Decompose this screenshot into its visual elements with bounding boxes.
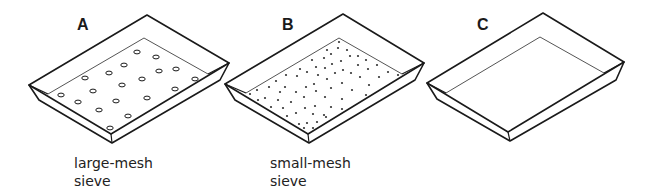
small-hole <box>324 96 326 98</box>
large-hole <box>144 96 150 100</box>
large-hole <box>139 77 145 81</box>
large-hole <box>90 89 96 93</box>
large-hole <box>192 77 198 81</box>
large-hole <box>173 67 179 71</box>
small-hole <box>324 67 326 69</box>
small-hole <box>342 69 344 71</box>
tray-a-label: A <box>77 17 89 33</box>
small-hole <box>264 97 266 99</box>
large-hole <box>113 99 119 103</box>
tray-b-caption: small-mesh sieve <box>270 154 351 190</box>
tray-rim <box>427 13 624 132</box>
small-hole <box>350 72 352 74</box>
small-hole <box>270 106 272 108</box>
small-hole <box>365 94 367 96</box>
large-hole <box>106 71 112 75</box>
small-hole <box>312 113 314 115</box>
small-hole <box>268 86 270 88</box>
small-hole <box>330 53 332 55</box>
small-hole <box>341 82 343 84</box>
small-hole <box>299 68 301 70</box>
small-hole <box>341 98 343 100</box>
small-hole <box>256 89 258 91</box>
tray-rim <box>225 14 424 134</box>
tray-b-caption-line-1: small-mesh <box>270 154 351 172</box>
small-hole <box>314 105 316 107</box>
tray-c-solid-tray <box>427 13 624 141</box>
small-hole <box>365 59 367 61</box>
small-hole <box>315 90 317 92</box>
small-hole <box>312 127 314 129</box>
small-hole <box>277 99 279 101</box>
small-hole <box>303 127 305 129</box>
small-hole <box>303 96 305 98</box>
small-hole <box>334 72 336 74</box>
small-hole <box>357 64 359 66</box>
small-hole <box>316 121 318 123</box>
small-hole <box>349 55 351 57</box>
large-hole <box>121 63 127 67</box>
small-hole <box>338 41 340 43</box>
small-hole <box>298 123 300 125</box>
tray-a-caption-line-1: large-mesh <box>74 154 153 172</box>
large-hole <box>107 126 113 130</box>
small-hole <box>323 114 325 116</box>
small-hole <box>340 60 342 62</box>
small-hole <box>378 76 380 78</box>
tray-b-caption-line-2: sieve <box>270 172 351 190</box>
large-hole <box>75 100 81 104</box>
small-hole <box>326 49 328 51</box>
tray-b-label: B <box>282 17 294 33</box>
small-hole <box>295 112 297 114</box>
small-hole <box>282 107 284 109</box>
small-hole <box>313 83 315 85</box>
small-hole <box>346 49 348 51</box>
small-hole <box>290 101 292 103</box>
small-hole <box>315 66 317 68</box>
small-hole <box>279 91 281 93</box>
small-hole <box>326 78 328 80</box>
small-hole <box>397 74 399 76</box>
large-hole <box>153 55 159 59</box>
small-hole <box>306 122 308 124</box>
small-hole <box>325 116 327 118</box>
small-hole <box>304 107 306 109</box>
small-hole <box>367 68 369 70</box>
tray-a-caption-line-2: sieve <box>74 172 153 190</box>
small-hole <box>330 87 332 89</box>
small-hole <box>311 59 313 61</box>
large-hole <box>134 50 140 54</box>
large-hole <box>96 108 102 112</box>
small-hole <box>284 86 286 88</box>
tray-b-small-mesh-sieve <box>225 14 424 143</box>
small-hole <box>257 99 259 101</box>
small-hole <box>323 57 325 59</box>
small-hole <box>295 91 297 93</box>
large-hole <box>82 76 88 80</box>
small-hole <box>359 76 361 78</box>
small-hole <box>357 55 359 57</box>
small-hole <box>337 47 339 49</box>
small-hole <box>351 89 353 91</box>
small-hole <box>285 74 287 76</box>
large-hole <box>156 69 162 73</box>
small-hole <box>331 63 333 65</box>
small-hole <box>286 115 288 117</box>
small-hole <box>341 108 343 110</box>
small-hole <box>249 93 251 95</box>
small-hole <box>376 64 378 66</box>
small-hole <box>330 106 332 108</box>
small-hole <box>387 71 389 73</box>
small-hole <box>368 84 370 86</box>
large-hole <box>119 83 125 87</box>
small-hole <box>275 80 277 82</box>
small-hole <box>296 75 298 77</box>
small-hole <box>305 86 307 88</box>
small-hole <box>317 74 319 76</box>
tray-a-caption: large-mesh sieve <box>74 154 153 190</box>
tray-c-label: C <box>477 17 489 33</box>
large-hole <box>172 87 178 91</box>
small-hole <box>306 71 308 73</box>
large-hole <box>58 93 64 97</box>
tray-a-large-mesh-sieve <box>29 15 229 143</box>
